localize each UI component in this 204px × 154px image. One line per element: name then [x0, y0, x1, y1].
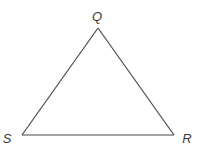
vertex-label-s: S — [3, 131, 12, 146]
vertex-label-q: Q — [92, 9, 102, 24]
vertex-label-r: R — [182, 131, 191, 146]
edge-s-q — [22, 28, 98, 135]
edge-q-r — [98, 28, 174, 135]
triangle-diagram: Q S R — [0, 0, 204, 154]
